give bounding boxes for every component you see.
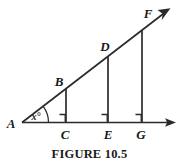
slanted-ray-group <box>22 8 171 122</box>
point-label-e: E <box>103 127 113 142</box>
angle-measure-label: x° <box>31 111 41 122</box>
horizontal-ray-group <box>22 118 176 126</box>
figure-caption: FIGURE 10.5 <box>0 147 179 162</box>
geometry-diagram: A B C D E F G x° <box>0 0 179 166</box>
right-angle-mark-e-icon <box>102 115 108 122</box>
right-angle-mark-g-icon <box>136 115 142 122</box>
point-label-f: F <box>143 6 153 21</box>
point-label-c: C <box>61 127 70 142</box>
slanted-ray-arrowhead-icon <box>158 8 171 20</box>
right-angle-mark-c-icon <box>60 115 66 122</box>
point-label-a: A <box>6 116 16 131</box>
point-label-b: B <box>54 74 64 89</box>
angle-arc-icon <box>43 106 49 122</box>
point-label-d: D <box>99 39 110 54</box>
point-label-g: G <box>136 127 146 142</box>
figure-container: A B C D E F G x° FIGURE 10.5 <box>0 0 179 166</box>
